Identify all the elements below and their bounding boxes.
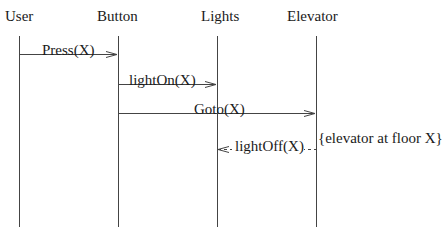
message-label-press: Press(X): [42, 42, 95, 58]
message-label-lightoff: lightOff(X): [235, 138, 304, 154]
message-label-lighton: lightOn(X): [129, 72, 196, 88]
annotation-elevator-at-floor: {elevator at floor X}: [318, 130, 443, 146]
message-label-goto: Goto(X): [194, 101, 245, 117]
